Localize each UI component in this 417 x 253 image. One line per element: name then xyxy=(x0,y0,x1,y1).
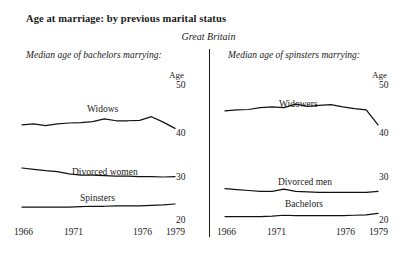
left-xtick-1966: 1966 xyxy=(14,227,33,237)
left-xtick-1979: 1979 xyxy=(166,227,185,237)
left-xtick-1971: 1971 xyxy=(64,227,83,237)
panel-divider xyxy=(209,49,210,237)
right-ytick-40: 40 xyxy=(379,128,389,138)
series-label-widows: Widows xyxy=(85,104,120,114)
line-bachelors xyxy=(225,213,378,216)
left-panel-heading: Median age of bachelors marrying: xyxy=(26,50,162,60)
left-ytick-30: 30 xyxy=(176,172,186,182)
left-axis-unit-label: Age xyxy=(169,70,184,80)
left-ytick-40: 40 xyxy=(176,128,186,138)
series-label-widowers: Widowers xyxy=(277,99,320,109)
line-divorced-men xyxy=(225,189,378,193)
right-ytick-50: 50 xyxy=(379,80,389,90)
right-xtick-1976: 1976 xyxy=(336,227,355,237)
right-xtick-1979: 1979 xyxy=(369,227,388,237)
series-label-bachelors: Bachelors xyxy=(283,199,325,209)
right-panel-heading: Median age of spinsters marrying: xyxy=(228,50,360,60)
chart-subtitle: Great Britain xyxy=(0,31,417,42)
series-label-divorced-men: Divorced men xyxy=(276,177,334,187)
right-ytick-30: 30 xyxy=(379,172,389,182)
right-xtick-1966: 1966 xyxy=(217,227,236,237)
left-ytick-20: 20 xyxy=(176,215,186,225)
line-spinsters xyxy=(22,204,175,207)
line-widows xyxy=(22,117,175,129)
left-xtick-1976: 1976 xyxy=(133,227,152,237)
chart-page: Age at marriage: by previous marital sta… xyxy=(0,0,417,253)
right-axis-unit-label: Age xyxy=(372,70,387,80)
series-label-divorced-women: Divorced women xyxy=(70,167,140,177)
right-xtick-1971: 1971 xyxy=(267,227,286,237)
left-ytick-50: 50 xyxy=(176,80,186,90)
series-label-spinsters: Spinsters xyxy=(78,193,117,203)
right-ytick-20: 20 xyxy=(379,215,389,225)
page-title: Age at marriage: by previous marital sta… xyxy=(26,13,226,24)
